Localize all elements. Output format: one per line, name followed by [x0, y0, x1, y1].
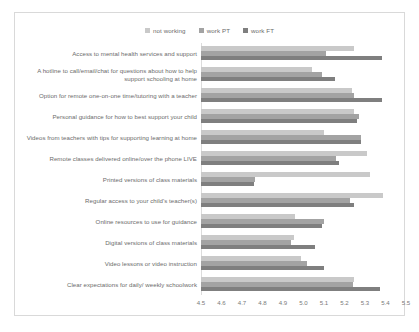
bar-work-pt	[201, 282, 353, 286]
bar-work-pt	[201, 93, 354, 97]
bar-group	[201, 277, 406, 291]
bar-work-pt	[201, 156, 336, 160]
category-axis-labels: Access to mental health services and sup…	[15, 43, 201, 295]
bar-work-pt	[201, 135, 361, 139]
bar-work-ft	[201, 56, 382, 60]
x-tick-label: 5.1	[320, 299, 328, 306]
bar-not-working	[201, 67, 312, 71]
category-label: A hotline to call/email/chat for questio…	[15, 67, 197, 83]
bar-work-ft	[201, 203, 354, 207]
bar-not-working	[201, 109, 354, 113]
category-label: Videos from teachers with tips for suppo…	[15, 134, 197, 142]
category-label: Remote classes delivered online/over the…	[15, 155, 197, 163]
bar-work-pt	[201, 219, 324, 223]
bar-work-ft	[201, 98, 382, 102]
bar-work-pt	[201, 72, 322, 76]
legend-swatch-work-ft	[243, 28, 248, 33]
bar-work-ft	[201, 266, 324, 270]
bar-not-working	[201, 130, 324, 134]
x-tick-label: 4.7	[238, 299, 246, 306]
bar-work-ft	[201, 77, 335, 81]
category-label: Clear expectations for daily/ weekly sch…	[15, 281, 197, 289]
bar-work-pt	[201, 177, 255, 181]
bar-group	[201, 235, 406, 249]
chart-legend: not working work PT work FT	[15, 27, 404, 34]
chart-container: not working work PT work FT Access to me…	[14, 12, 405, 316]
legend-label-not-working: not working	[153, 27, 186, 34]
value-axis-ticks: 4.54.64.74.84.95.05.15.25.35.45.5	[201, 295, 406, 315]
x-tick-label: 5.2	[340, 299, 348, 306]
legend-entry-not-working: not working	[145, 27, 186, 34]
bar-group	[201, 46, 406, 60]
bar-group	[201, 130, 406, 144]
bar-work-pt	[201, 240, 291, 244]
legend-swatch-not-working	[145, 28, 150, 33]
bar-group	[201, 193, 406, 207]
legend-label-work-ft: work FT	[251, 27, 274, 34]
category-label: Personal guidance for how to best suppor…	[15, 113, 197, 121]
bar-group	[201, 109, 406, 123]
category-label: Printed versions of class materials	[15, 176, 197, 184]
bar-not-working	[201, 88, 352, 92]
bar-not-working	[201, 172, 370, 176]
bar-work-pt	[201, 261, 307, 265]
bar-group	[201, 214, 406, 228]
bar-not-working	[201, 277, 354, 281]
bar-work-ft	[201, 245, 315, 249]
bar-group	[201, 88, 406, 102]
x-tick-label: 5.4	[381, 299, 389, 306]
category-label: Online resources to use for guidance	[15, 218, 197, 226]
bar-work-ft	[201, 140, 361, 144]
bar-work-ft	[201, 224, 322, 228]
bar-not-working	[201, 193, 383, 197]
category-label: Access to mental health services and sup…	[15, 50, 197, 58]
category-label: Regular access to your child's teacher(s…	[15, 197, 197, 205]
x-tick-label: 4.8	[258, 299, 266, 306]
bar-group	[201, 67, 406, 81]
bar-work-ft	[201, 182, 254, 186]
bar-group	[201, 151, 406, 165]
bar-work-ft	[201, 119, 357, 123]
x-tick-label: 5.5	[402, 299, 410, 306]
bar-work-pt	[201, 114, 359, 118]
category-label: Video lessons or video instruction	[15, 260, 197, 268]
x-tick-label: 4.5	[197, 299, 205, 306]
category-label: Digital versions of class materials	[15, 239, 197, 247]
legend-entry-work-pt: work PT	[199, 27, 230, 34]
legend-swatch-work-pt	[199, 28, 204, 33]
bar-work-pt	[201, 198, 350, 202]
legend-entry-work-ft: work FT	[243, 27, 274, 34]
plot-area: Access to mental health services and sup…	[15, 43, 406, 315]
x-tick-label: 4.6	[217, 299, 225, 306]
bar-group	[201, 172, 406, 186]
bar-not-working	[201, 235, 294, 239]
x-tick-label: 4.9	[279, 299, 287, 306]
x-tick-label: 5.0	[299, 299, 307, 306]
x-tick-label: 5.3	[361, 299, 369, 306]
bar-work-ft	[201, 287, 380, 291]
bar-not-working	[201, 214, 295, 218]
bar-work-pt	[201, 51, 326, 55]
bar-not-working	[201, 151, 367, 155]
bar-not-working	[201, 46, 354, 50]
bar-work-ft	[201, 161, 339, 165]
bars-area	[201, 43, 406, 295]
legend-label-work-pt: work PT	[207, 27, 230, 34]
category-label: Option for remote one-on-one time/tutori…	[15, 92, 197, 100]
bar-group	[201, 256, 406, 270]
bar-not-working	[201, 256, 301, 260]
